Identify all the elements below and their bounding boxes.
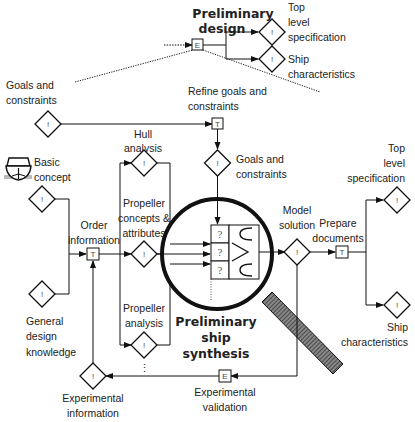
info-glyph: ! xyxy=(143,250,145,259)
info-glyph: ! xyxy=(143,159,145,168)
label-order-1: Order xyxy=(81,219,108,231)
label-general-3: knowledge xyxy=(26,346,76,358)
question-glyph: ? xyxy=(218,228,223,240)
question-glyph: ? xyxy=(218,246,223,258)
inset-label-ship: Ship xyxy=(288,53,309,65)
info-glyph: ! xyxy=(296,248,298,257)
label-general-2: design xyxy=(26,330,57,342)
inset-node-glyph: E xyxy=(195,41,200,50)
flow-general-up xyxy=(55,254,69,294)
label-refine-2: constraints xyxy=(188,100,239,112)
label-order-2: information xyxy=(68,234,120,246)
label-shipchar-2: characteristics xyxy=(341,336,408,348)
info-glyph: ! xyxy=(396,301,398,310)
label-shipchar-1: Ship xyxy=(387,321,408,333)
info-glyph: ! xyxy=(41,195,43,204)
label-refine-1: Refine goals and xyxy=(188,85,267,97)
label-tls-3: specification xyxy=(347,172,405,184)
info-glyph: ! xyxy=(216,159,218,168)
info-glyph: ! xyxy=(396,196,398,205)
label-basic-1: Basic xyxy=(34,156,60,168)
label-goals-mid-1: Goals and xyxy=(236,153,284,165)
label-propconc-3: attributes xyxy=(122,227,165,239)
magnifier-handle xyxy=(262,292,343,374)
info-glyph: ! xyxy=(143,341,145,350)
flow-basic-down xyxy=(55,199,69,254)
task-glyph: T xyxy=(91,250,96,259)
label-prepare-1: Prepare xyxy=(319,217,357,229)
label-goals-mid-2: constraints xyxy=(236,168,287,180)
info-glyph: ! xyxy=(47,120,49,129)
ship-design-diagram: Preliminary design E ! ! Top level speci… xyxy=(0,0,415,422)
info-glyph: ! xyxy=(41,290,43,299)
label-expval-2: validation xyxy=(203,401,248,413)
label-basic-2: concept xyxy=(34,171,71,183)
label-model-2: solution xyxy=(279,219,315,231)
inset-label-specification: specification xyxy=(288,31,346,43)
inset-label-characteristics: characteristics xyxy=(288,68,355,80)
synthesis-title-3: synthesis xyxy=(182,346,249,361)
label-propconc-1: Propeller xyxy=(123,197,166,209)
zoom-line-left xyxy=(75,50,193,82)
label-goals-top-2: constraints xyxy=(6,94,57,106)
label-propconc-2: concepts & xyxy=(118,212,170,224)
task-glyph: T xyxy=(340,248,345,257)
label-expinfo-2: information xyxy=(67,407,119,419)
info-glyph: ! xyxy=(271,28,273,37)
label-goals-top-1: Goals and xyxy=(6,79,54,91)
label-hull-1: Hull xyxy=(134,128,152,140)
label-propan-2: analysis xyxy=(125,317,163,329)
inset-preliminary-design: Preliminary design E ! ! Top level speci… xyxy=(75,1,355,92)
flow-to-ship-char xyxy=(366,252,383,305)
label-tls-2: level xyxy=(383,157,405,169)
label-general-1: General xyxy=(26,315,63,327)
label-model-1: Model xyxy=(283,204,312,216)
ship-hull-icon xyxy=(4,158,32,180)
question-glyph: ? xyxy=(218,264,223,276)
inset-label-level: level xyxy=(288,16,310,28)
experiment-glyph: E xyxy=(222,372,227,381)
inset-label-top: Top xyxy=(288,1,305,13)
flow-to-propeller-analysis xyxy=(120,254,131,345)
info-glyph: ! xyxy=(92,372,94,381)
info-glyph: ! xyxy=(271,55,273,64)
label-propan-1: Propeller xyxy=(123,302,166,314)
ellipsis-more: ⋮ xyxy=(139,362,150,374)
inset-title-line1: Preliminary xyxy=(192,6,273,21)
inset-connector-bottom xyxy=(226,45,258,59)
synthesis-title-2: ship xyxy=(201,330,231,345)
label-expval-1: Experimental xyxy=(194,386,255,398)
label-tls-1: Top xyxy=(388,142,405,154)
label-expinfo-1: Experimental xyxy=(62,392,123,404)
synthesis-title-1: Preliminary xyxy=(175,314,256,329)
label-prepare-2: documents xyxy=(312,232,363,244)
task-glyph: T xyxy=(215,120,220,129)
inset-title-line2: design xyxy=(199,21,246,36)
